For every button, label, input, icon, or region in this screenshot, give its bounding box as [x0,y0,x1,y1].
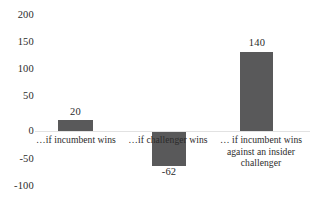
x-axis-label-incumbent-vs-insider: … if incumbent wins against an insider c… [214,134,308,169]
value-label-bar-1: 20 [53,106,98,117]
bar-incumbent-vs-insider[interactable] [240,52,273,131]
value-label-bar-2: -62 [146,166,192,177]
value-label-bar-3: 140 [234,37,280,48]
x-axis-label-line-1: … if incumbent wins [214,134,308,146]
bar-chart: 200 150 100 50 0 -50 -100 20 -62 140 …if… [0,0,310,202]
bar-incumbent-wins[interactable] [58,120,93,131]
x-axis-label-line-2: against an insider [214,146,308,158]
x-axis-label-challenger-wins: …if challenger wins [124,134,212,146]
x-axis-label-incumbent-wins: …if incumbent wins [32,134,120,146]
x-axis-label-line-3: challenger [214,157,308,169]
